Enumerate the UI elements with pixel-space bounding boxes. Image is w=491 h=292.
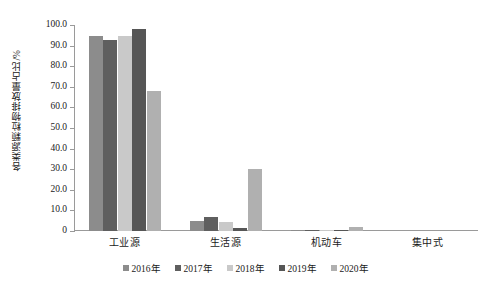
bar bbox=[349, 227, 363, 231]
bar bbox=[334, 230, 348, 231]
legend-label: 2016年 bbox=[132, 261, 161, 275]
plot-area bbox=[74, 25, 478, 231]
legend-item[interactable]: 2018年 bbox=[227, 261, 265, 275]
y-axis-title: 各类源颗粒物排放量占比/% bbox=[12, 50, 26, 171]
legend-item[interactable]: 2020年 bbox=[331, 261, 369, 275]
legend-label: 2018年 bbox=[236, 261, 265, 275]
x-axis-category-label: 集中式 bbox=[388, 234, 468, 249]
y-axis-tick-label: 60.0 bbox=[50, 102, 67, 111]
legend-swatch-icon bbox=[227, 265, 233, 271]
bar bbox=[233, 228, 247, 231]
bar bbox=[248, 169, 262, 231]
chart-legend: 2016年2017年2018年2019年2020年 bbox=[0, 261, 491, 275]
y-axis-tick-label: 80.0 bbox=[50, 61, 67, 70]
y-axis-tick-label: 30.0 bbox=[50, 164, 67, 173]
bar-group bbox=[392, 25, 464, 231]
bar bbox=[219, 222, 233, 231]
bar-group bbox=[190, 25, 262, 231]
bar bbox=[320, 230, 334, 231]
y-axis-tick-label: 10.0 bbox=[50, 205, 67, 214]
bar bbox=[147, 91, 161, 231]
x-axis-category-label: 工业源 bbox=[85, 234, 165, 249]
bar bbox=[305, 230, 319, 231]
legend-swatch-icon bbox=[331, 265, 337, 271]
legend-label: 2017年 bbox=[184, 261, 213, 275]
x-axis-category-label: 生活源 bbox=[186, 234, 266, 249]
bar-group bbox=[291, 25, 363, 231]
bar bbox=[118, 36, 132, 231]
y-axis-tick-label: 70.0 bbox=[50, 82, 67, 91]
legend-swatch-icon bbox=[123, 265, 129, 271]
legend-item[interactable]: 2017年 bbox=[175, 261, 213, 275]
x-axis-category-label: 机动车 bbox=[287, 234, 367, 249]
y-axis-tick-label: 90.0 bbox=[50, 41, 67, 50]
y-axis-tick bbox=[70, 231, 75, 232]
bar-group bbox=[89, 25, 161, 231]
y-axis-tick-label: 20.0 bbox=[50, 185, 67, 194]
y-axis-tick-label: 50.0 bbox=[50, 123, 67, 132]
bar bbox=[204, 217, 218, 231]
y-axis-tick-label: 100.0 bbox=[46, 20, 67, 29]
legend-swatch-icon bbox=[279, 265, 285, 271]
bar bbox=[190, 221, 204, 231]
legend-swatch-icon bbox=[175, 265, 181, 271]
y-axis-tick-label: 40.0 bbox=[50, 144, 67, 153]
bar bbox=[89, 36, 103, 231]
bar bbox=[103, 40, 117, 231]
legend-item[interactable]: 2016年 bbox=[123, 261, 161, 275]
legend-label: 2019年 bbox=[288, 261, 317, 275]
legend-item[interactable]: 2019年 bbox=[279, 261, 317, 275]
bar-chart: 各类源颗粒物排放量占比/% 010.020.030.040.050.060.07… bbox=[0, 0, 491, 292]
legend-label: 2020年 bbox=[340, 261, 369, 275]
bar bbox=[291, 230, 305, 231]
bar bbox=[132, 29, 146, 231]
y-axis-tick-label: 0 bbox=[62, 226, 67, 235]
